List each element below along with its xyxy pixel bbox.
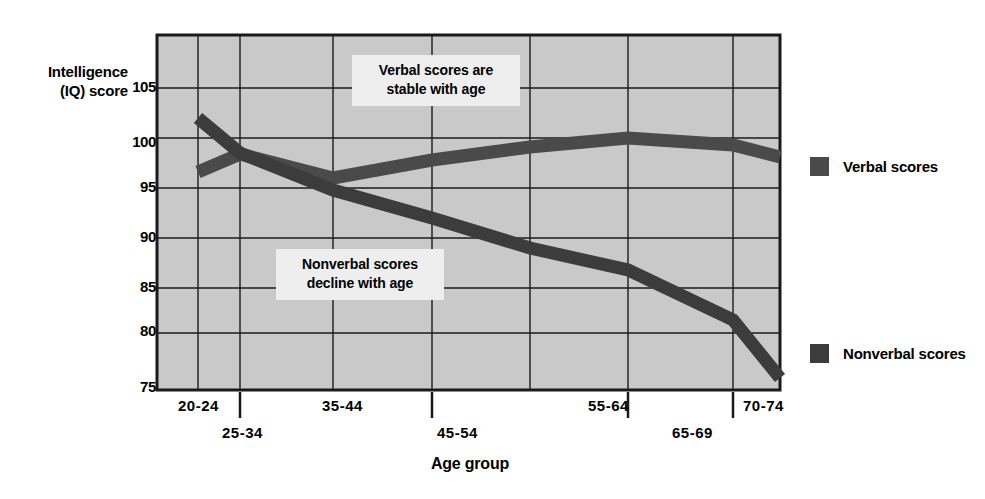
x-axis-title: Age group — [370, 455, 570, 473]
legend-label-nonverbal: Nonverbal scores — [843, 345, 966, 362]
x-tick-45-54: 45-54 — [437, 424, 478, 441]
annotation-verbal-line1: Verbal scores are — [379, 62, 493, 78]
legend-label-verbal: Verbal scores — [843, 158, 938, 175]
x-tick-65-69: 65-69 — [672, 424, 713, 441]
legend-item-nonverbal: Nonverbal scores — [810, 344, 966, 363]
annotation-nonverbal-note: Nonverbal scores decline with age — [276, 249, 444, 300]
annotation-nonverbal-line1: Nonverbal scores — [302, 256, 418, 272]
annotation-verbal-line2: stable with age — [387, 81, 486, 97]
annotation-verbal-note: Verbal scores are stable with age — [352, 55, 520, 106]
x-tick-55-64: 55-64 — [588, 397, 629, 414]
x-tick-25-34: 25-34 — [222, 424, 263, 441]
x-axis-tick-marks — [240, 392, 733, 418]
annotation-nonverbal-line2: decline with age — [307, 275, 414, 291]
legend-swatch-verbal-icon — [810, 157, 829, 176]
x-tick-70-74: 70-74 — [743, 397, 784, 414]
legend-item-verbal: Verbal scores — [810, 157, 938, 176]
iq-by-age-chart: Intelligence (IQ) score 105 100 95 90 85… — [0, 0, 985, 499]
x-tick-35-44: 35-44 — [322, 397, 363, 414]
legend-swatch-nonverbal-icon — [810, 344, 829, 363]
x-tick-20-24: 20-24 — [178, 397, 219, 414]
